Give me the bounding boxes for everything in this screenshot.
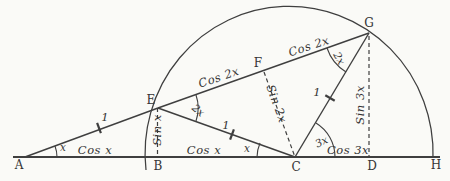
label-sin-x-eb: Sin x [150,114,164,146]
label-one-ec: 1 [222,118,229,132]
label-one-ae: 1 [101,110,108,124]
point-label-c: C [291,160,300,174]
point-label-h: H [431,158,441,172]
unit-tick-ae [97,123,101,133]
point-label-a: A [14,158,24,172]
point-label-b: B [154,159,163,173]
angle-label-2x-at-g: 2x [331,49,348,67]
label-cos-2x-fg: Cos 2x [287,33,331,59]
label-sin-3x-gd: Sin 3x [353,85,367,124]
label-one-cg: 1 [313,85,320,99]
label-sin-2x-fc: Sin 2x [263,83,290,125]
angle-arc-x-at-a [55,146,57,157]
angle-label-2x-at-e: 2x [189,101,207,119]
angle-label-x-at-a: x [60,141,66,153]
angle-label-x-at-c: x [244,142,250,154]
point-label-d: D [367,159,377,173]
point-label-g: G [364,16,374,30]
unit-tick-cg [325,95,334,101]
trig-multiple-angle-diagram: A B C D H E F G Cos x Cos x Cos 3x Cos 2… [0,0,450,181]
label-cos-x-ab: Cos x [78,143,112,157]
point-label-f: F [254,56,262,70]
label-cos-x-bc: Cos x [187,143,221,157]
segment-eg [158,33,369,108]
angle-arc-x-at-c [257,143,260,157]
label-cos-3x-cd: Cos 3x [327,143,369,157]
point-label-e: E [147,93,156,107]
